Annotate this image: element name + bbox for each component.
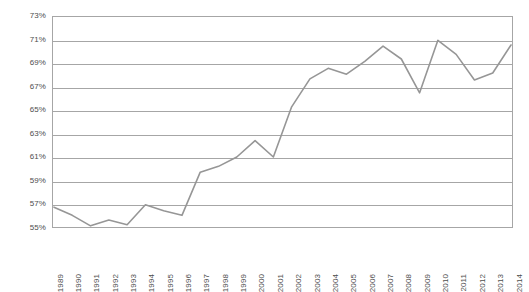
plot-area (52, 16, 513, 228)
x-tick-label: 2003 (314, 274, 322, 292)
x-tick-label: 2007 (387, 274, 395, 292)
y-tick-label: 57% (30, 200, 46, 208)
x-axis: 1989199019911992199319941995199619971998… (52, 229, 513, 280)
x-tick-label: 2004 (332, 274, 340, 292)
x-tick-label: 1991 (93, 274, 101, 292)
y-tick-label: 67% (30, 83, 46, 91)
series-line-series-1 (54, 40, 511, 225)
x-tick-label: 2002 (295, 274, 303, 292)
x-tick-label: 1989 (57, 274, 65, 292)
y-tick-label: 71% (30, 36, 46, 44)
x-tick-label: 2008 (405, 274, 413, 292)
x-tick-label: 1999 (240, 274, 248, 292)
x-tick-label: 1998 (222, 274, 230, 292)
x-tick-label: 1997 (203, 274, 211, 292)
x-tick-label: 1990 (75, 274, 83, 292)
y-tick-label: 55% (30, 224, 46, 232)
y-tick-label: 65% (30, 106, 46, 114)
x-tick-label: 2005 (350, 274, 358, 292)
x-tick-label: 1994 (148, 274, 156, 292)
x-tick-label: 2001 (277, 274, 285, 292)
y-tick-label: 59% (30, 177, 46, 185)
x-tick-label: 2012 (479, 274, 487, 292)
x-tick-label: 2006 (369, 274, 377, 292)
x-tick-label: 1996 (185, 274, 193, 292)
x-tick-label: 1995 (167, 274, 175, 292)
x-tick-label: 2000 (258, 274, 266, 292)
x-tick-label: 1992 (112, 274, 120, 292)
y-tick-label: 69% (30, 59, 46, 67)
y-tick-label: 73% (30, 12, 46, 20)
series-layer (53, 17, 512, 227)
x-tick-label: 2010 (442, 274, 450, 292)
y-tick-label: 61% (30, 153, 46, 161)
x-tick-label: 2009 (424, 274, 432, 292)
y-tick-label: 63% (30, 130, 46, 138)
x-tick-label: 2011 (460, 274, 468, 292)
x-tick-label: 2014 (516, 274, 524, 292)
x-tick-label: 2013 (497, 274, 505, 292)
y-axis: 73%71%69%67%65%63%61%59%57%55% (0, 0, 50, 280)
x-tick-label: 1993 (130, 274, 138, 292)
